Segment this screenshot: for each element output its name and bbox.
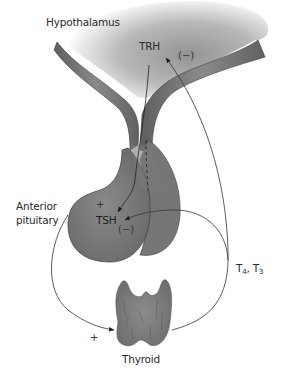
t4-t3-label: T4, T3 [236, 262, 263, 279]
tsh-stimulation-sign: + [96, 199, 104, 211]
thyroid-label: Thyroid [122, 353, 160, 366]
tsh-label: TSH [96, 214, 116, 227]
thyroid-axis-diagram: Hypothalamus TRH (−) Anterior pituitary … [0, 0, 282, 380]
trh-inhibition-sign: (−) [178, 50, 194, 62]
thyroid-gland [116, 280, 172, 346]
trh-label: TRH [139, 40, 160, 53]
t3-text: , T [246, 262, 259, 274]
diagram-canvas [0, 0, 282, 380]
thyroid-stimulation-sign: + [90, 332, 98, 344]
t3-subscript: 3 [259, 268, 263, 276]
tsh-inhibition-sign: (−) [118, 224, 134, 236]
anterior-pituitary-label-line1: Anterior [16, 200, 57, 213]
hypothalamus-label: Hypothalamus [46, 16, 120, 29]
anterior-pituitary-label-line2: pituitary [16, 214, 59, 227]
anterior-pituitary-body [68, 140, 180, 262]
